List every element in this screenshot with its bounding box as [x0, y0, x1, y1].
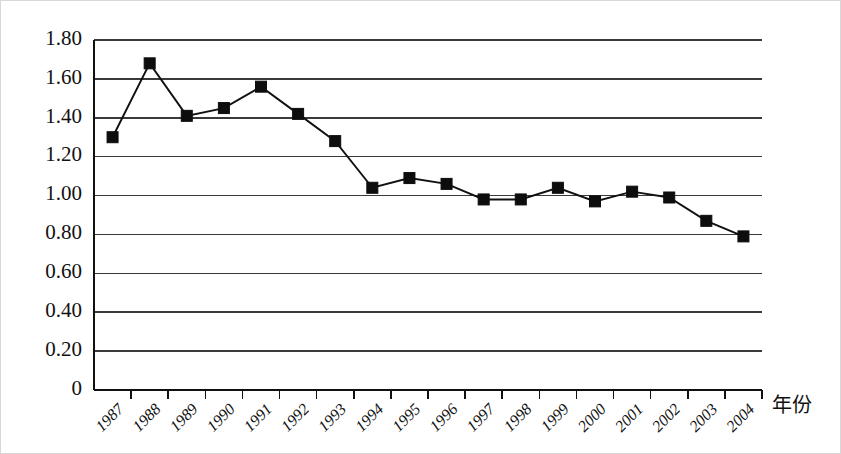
- data-point-marker: [144, 58, 155, 69]
- x-axis-tick-label: 1993: [315, 400, 350, 435]
- x-axis-tick-label: 2001: [612, 400, 647, 435]
- data-point-marker: [367, 182, 378, 193]
- x-axis-tick-label: 1989: [166, 400, 201, 435]
- data-point-marker: [701, 215, 712, 226]
- x-axis-tick-marks: [131, 390, 762, 399]
- x-axis-tick-label: 1991: [240, 400, 275, 435]
- y-axis-tick-labels: 1.801.601.401.201.000.800.600.400.200: [45, 26, 82, 400]
- y-axis-tick-label: 0: [72, 376, 83, 400]
- x-axis-tick-label: 1998: [500, 400, 535, 435]
- x-axis-tick-label: 1990: [203, 400, 238, 435]
- data-point-marker: [478, 194, 489, 205]
- x-axis-tick-label: 1996: [426, 400, 461, 435]
- data-point-marker: [218, 103, 229, 114]
- x-axis-tick-label: 1994: [352, 400, 387, 435]
- y-axis-tick-label: 1.60: [45, 65, 82, 89]
- data-point-marker: [627, 186, 638, 197]
- series-markers: [107, 58, 749, 242]
- x-axis-tick-label: 2002: [649, 400, 684, 435]
- y-axis-tick-label: 1.80: [45, 26, 82, 50]
- y-axis-tick-label: 1.20: [45, 142, 82, 166]
- data-point-marker: [293, 108, 304, 119]
- y-axis-tick-label: 1.40: [45, 104, 82, 128]
- x-axis-tick-labels: 1987198819891990199119921993199419951996…: [92, 399, 758, 434]
- x-axis-tick-label: 1995: [389, 400, 424, 435]
- x-axis-tick-label: 1999: [537, 400, 572, 435]
- x-axis-tick-label: 2004: [723, 400, 758, 435]
- data-point-marker: [738, 231, 749, 242]
- x-axis-tick-label: 1988: [129, 400, 164, 435]
- data-point-marker: [590, 196, 601, 207]
- x-axis-title: 年份: [772, 394, 812, 416]
- data-point-marker: [181, 110, 192, 121]
- y-axis-tick-label: 0.40: [45, 298, 82, 322]
- y-axis-tick-label: 0.80: [45, 220, 82, 244]
- y-axis-tick-label: 0.20: [45, 337, 82, 361]
- data-point-marker: [330, 136, 341, 147]
- series-line: [113, 63, 744, 236]
- data-point-marker: [404, 173, 415, 184]
- data-point-marker: [256, 81, 267, 92]
- x-axis-tick-label: 1992: [278, 400, 313, 435]
- y-axis-tick-label: 1.00: [45, 181, 82, 205]
- x-axis-tick-label: 1997: [463, 399, 498, 434]
- data-point-marker: [441, 178, 452, 189]
- y-axis-tick-label: 0.60: [45, 259, 82, 283]
- x-axis-tick-label: 2003: [686, 400, 721, 435]
- data-point-marker: [552, 182, 563, 193]
- chart-canvas: 1.801.601.401.201.000.800.600.400.200 19…: [0, 0, 841, 454]
- data-point-marker: [664, 192, 675, 203]
- data-point-marker: [107, 132, 118, 143]
- x-axis-tick-label: 1987: [92, 399, 127, 434]
- data-point-marker: [515, 194, 526, 205]
- x-axis-tick-label: 2000: [574, 400, 609, 435]
- line-chart: 1.801.601.401.201.000.800.600.400.200 19…: [0, 0, 841, 454]
